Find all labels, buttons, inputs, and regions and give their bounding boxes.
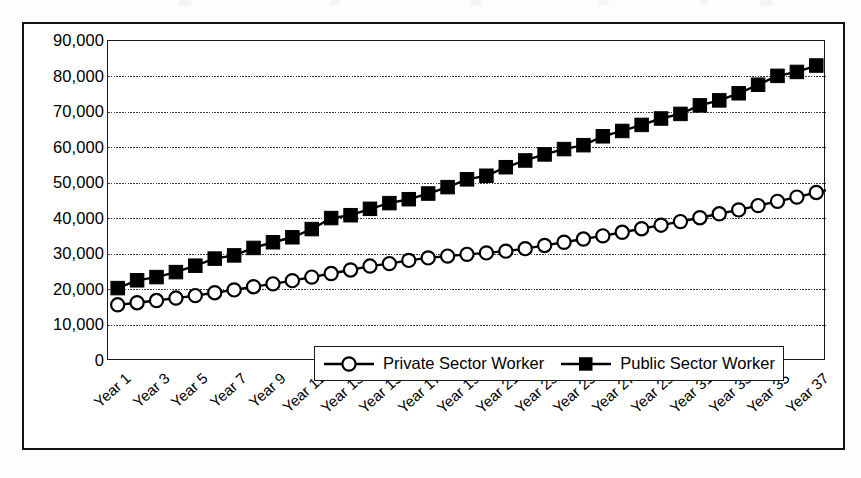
- data-point-marker: [557, 236, 570, 249]
- data-point-marker: [713, 207, 726, 220]
- filled-square-marker-icon: [560, 354, 612, 374]
- data-point-marker: [538, 239, 551, 252]
- data-point-marker: [247, 280, 260, 293]
- data-point-marker: [421, 187, 435, 201]
- data-point-marker: [324, 211, 338, 225]
- data-point-marker: [519, 242, 532, 255]
- data-point-marker: [402, 254, 415, 267]
- data-point-marker: [441, 180, 455, 194]
- y-axis-tick-label: 40,000: [28, 210, 104, 227]
- y-axis-tick-label: 70,000: [28, 103, 104, 120]
- scan-artifact: [178, 0, 192, 6]
- data-point-marker: [266, 235, 280, 249]
- data-point-marker: [111, 281, 125, 295]
- data-point-marker: [247, 241, 260, 255]
- data-point-marker: [635, 222, 648, 235]
- x-axis-tick-label: Year 7: [207, 370, 249, 410]
- legend-label: Private Sector Worker: [379, 354, 544, 373]
- data-point-marker: [674, 215, 687, 228]
- x-axis-tick-label: Year 3: [130, 370, 172, 410]
- data-point-marker: [790, 190, 803, 203]
- data-point-marker: [654, 112, 668, 126]
- x-axis-tick-label: Year 37: [783, 370, 831, 415]
- data-point-marker: [810, 59, 824, 73]
- data-point-marker: [499, 160, 513, 174]
- data-point-marker: [286, 231, 300, 245]
- x-axis-tick-label: Year 5: [168, 370, 210, 410]
- y-axis-tick-label: 0: [28, 352, 104, 369]
- chart-frame: 010,00020,00030,00040,00050,00060,00070,…: [22, 22, 845, 450]
- scan-artifact: [760, 0, 773, 6]
- data-point-marker: [460, 173, 474, 187]
- data-point-marker: [615, 124, 629, 137]
- open-circle-marker-icon: [323, 354, 375, 374]
- data-point-marker: [751, 78, 765, 92]
- data-point-marker: [577, 232, 590, 245]
- data-point-marker: [208, 252, 222, 266]
- data-point-marker: [596, 130, 610, 144]
- y-axis-tick-label: 50,000: [28, 174, 104, 191]
- y-axis-tick-label: 20,000: [28, 281, 104, 298]
- data-point-marker: [169, 265, 183, 279]
- data-point-marker: [228, 283, 241, 296]
- data-point-marker: [266, 277, 279, 290]
- x-axis-tick-label: Year 1: [91, 370, 133, 410]
- data-point-marker: [305, 270, 318, 283]
- data-point-marker: [286, 274, 299, 287]
- data-point-marker: [810, 186, 823, 199]
- plot-area: [107, 40, 825, 360]
- series-1: [111, 132, 826, 311]
- data-point-marker: [460, 248, 473, 261]
- scan-artifact: [700, 0, 709, 5]
- y-axis-tick-label: 30,000: [28, 245, 104, 262]
- data-point-marker: [790, 65, 804, 79]
- data-point-marker: [654, 219, 667, 232]
- data-point-marker: [480, 246, 493, 259]
- y-axis-tick-label: 60,000: [28, 138, 104, 155]
- data-point-marker: [363, 259, 376, 272]
- data-point-marker: [771, 195, 784, 208]
- data-point-marker: [771, 69, 785, 83]
- data-point-marker: [189, 259, 203, 273]
- data-point-marker: [499, 245, 512, 258]
- data-point-marker: [189, 289, 202, 302]
- data-point-marker: [131, 296, 144, 309]
- y-axis-tick-label: 10,000: [28, 316, 104, 333]
- data-point-marker: [325, 267, 338, 280]
- chart-legend: Private Sector WorkerPublic Sector Worke…: [314, 346, 784, 381]
- data-point-marker: [363, 202, 377, 216]
- y-axis-tick-label: 90,000: [28, 32, 104, 49]
- data-point-marker: [150, 270, 164, 284]
- scan-artifact: [330, 0, 340, 5]
- data-point-marker: [480, 169, 494, 183]
- data-point-marker: [635, 118, 649, 132]
- data-point-marker: [577, 138, 591, 152]
- legend-entry[interactable]: Public Sector Worker: [560, 354, 775, 374]
- legend-entry[interactable]: Private Sector Worker: [323, 354, 544, 374]
- data-point-marker: [305, 222, 319, 236]
- data-point-marker: [751, 199, 764, 212]
- data-point-marker: [732, 203, 745, 216]
- data-point-marker: [169, 291, 182, 304]
- data-point-marker: [111, 298, 124, 311]
- data-point-marker: [596, 229, 609, 242]
- y-axis-tick-label: 80,000: [28, 67, 104, 84]
- chart-page: 010,00020,00030,00040,00050,00060,00070,…: [0, 0, 861, 478]
- scan-artifact: [598, 0, 609, 5]
- data-point-marker: [557, 142, 571, 156]
- data-point-marker: [383, 196, 397, 210]
- data-point-marker: [383, 257, 396, 270]
- data-point-marker: [227, 249, 241, 263]
- data-point-marker: [130, 274, 144, 288]
- legend-label: Public Sector Worker: [616, 354, 775, 373]
- data-point-marker: [422, 251, 435, 264]
- data-point-marker: [150, 294, 163, 307]
- data-point-marker: [732, 87, 746, 101]
- data-point-marker: [693, 211, 706, 224]
- data-point-marker: [344, 208, 358, 222]
- data-point-marker: [518, 154, 532, 168]
- data-point-marker: [616, 226, 629, 239]
- data-point-marker: [208, 286, 221, 299]
- data-point-marker: [538, 148, 552, 162]
- data-point-marker: [693, 99, 707, 113]
